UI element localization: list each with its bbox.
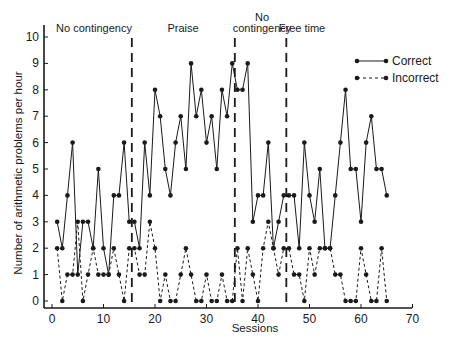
- data-point-marker: [225, 299, 230, 304]
- data-point-marker: [148, 193, 153, 198]
- data-point-marker: [168, 193, 173, 198]
- data-point-marker: [379, 246, 384, 251]
- data-point-marker: [184, 167, 189, 172]
- data-point-marker: [343, 299, 348, 304]
- axes: 012345678910010203040506070: [26, 25, 420, 326]
- data-point-marker: [256, 193, 261, 198]
- data-point-marker: [333, 193, 338, 198]
- data-point-marker: [266, 140, 271, 145]
- data-point-marker: [173, 299, 178, 304]
- legend: Correct Incorrect: [355, 54, 440, 85]
- data-point-marker: [256, 299, 261, 304]
- data-point-marker: [230, 299, 235, 304]
- data-point-marker: [240, 88, 245, 93]
- data-point-marker: [297, 272, 302, 277]
- data-point-marker: [199, 88, 204, 93]
- data-point-marker: [209, 114, 214, 119]
- data-point-marker: [148, 220, 153, 225]
- data-point-marker: [204, 140, 209, 145]
- phase-divider-lines: [132, 38, 287, 306]
- legend-correct-label: Correct: [392, 54, 432, 68]
- data-point-marker: [245, 61, 250, 66]
- data-point-marker: [281, 246, 286, 251]
- data-point-marker: [261, 193, 266, 198]
- legend-incorrect-marker-icon: [355, 76, 360, 81]
- data-point-marker: [60, 299, 65, 304]
- data-point-marker: [215, 167, 220, 172]
- data-point-marker: [86, 220, 91, 225]
- x-tick-label: 30: [200, 312, 214, 326]
- data-point-marker: [307, 193, 312, 198]
- series-line-incorrect: [57, 222, 387, 301]
- x-tick-label: 0: [49, 312, 56, 326]
- data-point-marker: [384, 299, 389, 304]
- data-point-marker: [163, 167, 168, 172]
- y-tick-label: 9: [32, 56, 39, 70]
- y-tick-label: 2: [32, 241, 39, 255]
- phase-label: No contingency: [56, 22, 132, 34]
- data-point-marker: [184, 246, 189, 251]
- data-point-marker: [374, 167, 379, 172]
- y-tick-label: 8: [32, 83, 39, 97]
- data-point-marker: [364, 272, 369, 277]
- y-tick-label: 6: [32, 136, 39, 150]
- data-point-marker: [354, 167, 359, 172]
- data-point-marker: [168, 299, 173, 304]
- data-point-marker: [220, 272, 225, 277]
- data-point-marker: [271, 246, 276, 251]
- legend-incorrect-label: Incorrect: [392, 71, 439, 85]
- data-point-marker: [106, 272, 111, 277]
- data-point-marker: [75, 272, 80, 277]
- data-point-marker: [348, 299, 353, 304]
- data-point-marker: [297, 246, 302, 251]
- data-point-marker: [117, 272, 122, 277]
- data-point-marker: [163, 272, 168, 277]
- legend-correct-marker-icon: [355, 59, 360, 64]
- y-tick-label: 10: [26, 30, 40, 44]
- data-point-marker: [153, 88, 158, 93]
- data-point-marker: [318, 246, 323, 251]
- data-point-marker: [292, 272, 297, 277]
- data-point-marker: [189, 61, 194, 66]
- data-point-marker: [384, 193, 389, 198]
- line-chart: 012345678910010203040506070 No contingen…: [0, 0, 454, 349]
- data-point-marker: [117, 193, 122, 198]
- data-point-marker: [142, 140, 147, 145]
- x-tick-label: 10: [97, 312, 111, 326]
- x-tick-label: 20: [148, 312, 162, 326]
- data-point-marker: [158, 114, 163, 119]
- data-point-marker: [96, 272, 101, 277]
- data-point-marker: [178, 114, 183, 119]
- data-point-marker: [209, 299, 214, 304]
- data-point-marker: [302, 140, 307, 145]
- data-point-marker: [338, 140, 343, 145]
- data-point-marker: [225, 114, 230, 119]
- data-point-marker: [281, 193, 286, 198]
- y-tick-label: 3: [32, 215, 39, 229]
- data-point-marker: [276, 220, 281, 225]
- data-point-marker: [112, 246, 117, 251]
- data-point-marker: [328, 246, 333, 251]
- data-point-marker: [153, 246, 158, 251]
- data-point-marker: [189, 272, 194, 277]
- data-point-marker: [199, 299, 204, 304]
- data-point-marker: [137, 246, 142, 251]
- y-tick-label: 1: [32, 268, 39, 282]
- data-point-marker: [343, 88, 348, 93]
- data-point-marker: [323, 246, 328, 251]
- phase-label: Praise: [167, 22, 198, 34]
- data-point-marker: [302, 299, 307, 304]
- data-point-marker: [137, 272, 142, 277]
- data-point-marker: [132, 220, 137, 225]
- series-line-correct: [57, 63, 387, 274]
- data-point-marker: [132, 246, 137, 251]
- data-point-marker: [245, 246, 250, 251]
- data-point-marker: [307, 246, 312, 251]
- data-point-marker: [379, 167, 384, 172]
- data-point-marker: [194, 299, 199, 304]
- y-tick-label: 4: [32, 188, 39, 202]
- series-incorrect: [55, 220, 389, 304]
- phase-label: Free time: [279, 22, 325, 34]
- data-point-marker: [194, 114, 199, 119]
- data-point-marker: [261, 246, 266, 251]
